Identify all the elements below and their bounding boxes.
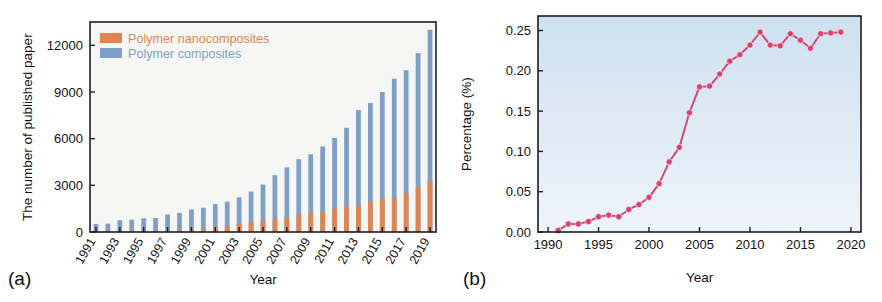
bar-polymer-composites	[106, 224, 111, 232]
panel-a-x-axis-label: Year	[250, 272, 277, 287]
panel-b-data-point	[646, 194, 652, 200]
panel-a-x-tick-label: 2017	[383, 235, 409, 266]
panel-b-data-point	[606, 212, 612, 218]
panel-b-plot: 0.000.050.100.150.200.251990199520002005…	[441, 0, 882, 302]
panel-b-y-tick-label: 0.05	[506, 184, 531, 199]
panel-b-x-tick-label: 1990	[534, 237, 563, 252]
bar-polymer-nanocomposites	[249, 222, 254, 232]
panel-b-x-tick-label: 2000	[635, 237, 664, 252]
panel-a-x-tick-label: 2005	[240, 235, 266, 266]
bar-polymer-composites	[153, 218, 158, 232]
panel-b-data-point	[616, 214, 622, 220]
bar-polymer-composites	[129, 220, 134, 232]
panel-b-data-point	[565, 221, 571, 227]
panel-b-data-point	[696, 84, 702, 90]
panel-b-y-tick-label: 0.10	[506, 144, 531, 159]
panel-b-data-point	[717, 71, 723, 77]
legend-label-composites: Polymer composites	[128, 47, 241, 61]
bar-polymer-nanocomposites	[428, 181, 433, 232]
panel-b-data-point	[828, 30, 834, 36]
panel-b-data-point	[747, 42, 753, 48]
panel-b-x-tick-label: 2010	[736, 237, 765, 252]
bar-polymer-nanocomposites	[273, 220, 278, 232]
panel-b-x-tick-label: 2015	[786, 237, 815, 252]
panel-b-y-tick-label: 0.15	[506, 104, 531, 119]
panel-a-x-tick-label: 2015	[359, 235, 385, 266]
panel-b-data-point	[737, 52, 743, 58]
panel-a-tag: (a)	[8, 268, 31, 290]
panel-a-x-tick-label: 1991	[73, 235, 99, 266]
panel-a-x-tick-label: 1995	[120, 235, 146, 266]
bar-polymer-nanocomposites	[404, 193, 409, 232]
panel-b-data-point	[797, 37, 803, 43]
figure-container: The number of published paper Year (a) 0…	[0, 0, 882, 302]
legend-label-nanocomposites: Polymer nanocomposites	[128, 32, 269, 46]
panel-b-data-point	[787, 31, 793, 37]
panel-a-x-tick-label: 1999	[168, 235, 194, 266]
panel-b-data-point	[626, 206, 632, 212]
panel-b-data-point	[676, 144, 682, 150]
panel-a-x-tick-label: 2011	[312, 235, 338, 265]
panel-b-x-tick-label: 2020	[836, 237, 865, 252]
panel-b-data-point	[777, 43, 783, 49]
panel-b-y-tick-label: 0.25	[506, 23, 531, 38]
bar-polymer-nanocomposites	[392, 198, 397, 232]
panel-b-data-point	[727, 58, 733, 64]
panel-a-bar-chart: The number of published paper Year (a) 0…	[0, 0, 441, 302]
bar-polymer-nanocomposites	[296, 215, 301, 232]
bar-polymer-nanocomposites	[416, 187, 421, 232]
panel-b-data-point	[575, 221, 581, 227]
panel-a-y-tick-label: 12000	[47, 38, 83, 53]
panel-b-data-point	[585, 218, 591, 224]
legend-swatch-nanocomposites	[100, 33, 122, 43]
panel-b-y-tick-label: 0.20	[506, 63, 531, 78]
panel-a-y-tick-label: 3000	[54, 178, 83, 193]
panel-b-data-point	[767, 42, 773, 48]
panel-a-x-tick-label: 2001	[192, 235, 218, 266]
bar-polymer-composites	[177, 213, 182, 232]
panel-a-plot: 0300060009000120001991199319951997199920…	[0, 0, 441, 302]
bar-polymer-nanocomposites	[368, 202, 373, 232]
bar-polymer-nanocomposites	[344, 207, 349, 232]
panel-b-y-axis-label: Percentage (%)	[459, 77, 474, 171]
legend-swatch-composites	[100, 48, 122, 58]
panel-b-line-chart: Percentage (%) Year (b) 0.000.050.100.15…	[441, 0, 882, 302]
panel-a-x-tick-label: 2003	[216, 235, 242, 266]
panel-a-x-tick-label: 2013	[335, 235, 361, 266]
panel-a-y-tick-label: 9000	[54, 85, 83, 100]
panel-b-x-axis-label: Year	[686, 270, 713, 285]
panel-b-data-point	[757, 29, 763, 35]
panel-a-y-tick-label: 0	[76, 225, 83, 240]
panel-a-y-tick-label: 6000	[54, 131, 83, 146]
panel-b-data-point	[666, 159, 672, 165]
panel-b-data-point	[636, 202, 642, 208]
panel-a-x-tick-label: 1993	[96, 235, 122, 266]
panel-b-tag: (b)	[463, 268, 486, 290]
bar-polymer-nanocomposites	[320, 212, 325, 232]
panel-b-data-point	[595, 214, 601, 220]
panel-a-x-tick-label: 2007	[263, 235, 289, 266]
panel-b-y-tick-label: 0.00	[506, 225, 531, 240]
bar-polymer-composites	[201, 208, 206, 232]
panel-b-data-point	[807, 45, 813, 51]
bar-polymer-nanocomposites	[225, 226, 230, 232]
panel-a-x-tick-label: 2019	[407, 235, 433, 266]
panel-b-x-tick-label: 1995	[584, 237, 613, 252]
panel-b-x-tick-label: 2005	[685, 237, 714, 252]
panel-b-data-point	[706, 83, 712, 89]
panel-a-y-axis-label: The number of published paper	[20, 33, 35, 221]
panel-b-data-point	[656, 181, 662, 187]
panel-a-x-tick-label: 2009	[287, 235, 313, 266]
panel-a-x-tick-label: 1997	[144, 235, 170, 266]
panel-b-data-point	[818, 31, 824, 37]
panel-b-data-point	[838, 29, 844, 35]
panel-b-data-point	[686, 110, 692, 116]
